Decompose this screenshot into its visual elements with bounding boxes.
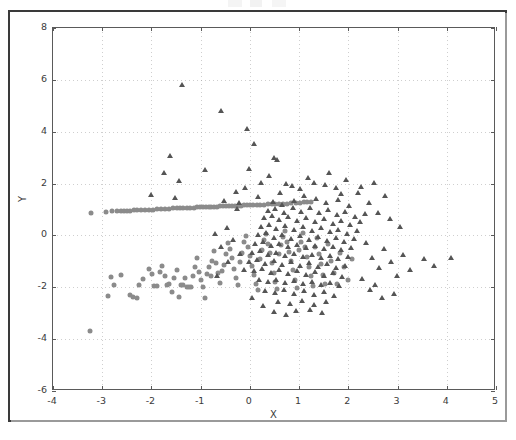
scatter-point-triangles	[256, 277, 262, 282]
scatter-point-triangles	[265, 279, 271, 284]
x-axis-tick-label: 0	[246, 396, 252, 406]
scatter-point-triangles	[294, 242, 300, 247]
scatter-point-triangles	[279, 202, 285, 207]
scatter-point-triangles	[251, 268, 257, 273]
scatter-point-triangles	[309, 228, 315, 233]
scatter-point-circles	[106, 294, 111, 299]
scatter-point-triangles	[272, 206, 278, 211]
scatter-point-triangles	[225, 259, 231, 264]
scatter-point-circles	[224, 251, 229, 256]
scatter-point-triangles	[325, 207, 331, 212]
scatter-point-triangles	[251, 141, 257, 146]
scatter-point-triangles	[312, 243, 318, 248]
scatter-point-triangles	[270, 199, 276, 204]
scatter-point-triangles	[319, 310, 325, 315]
y-axis-tick-label: 2	[28, 178, 47, 188]
scatter-point-circles	[310, 283, 315, 288]
scatter-point-triangles	[330, 270, 336, 275]
x-axis-tick-label: 3	[394, 396, 400, 406]
scatter-point-triangles	[311, 292, 317, 297]
scatter-point-triangles	[275, 299, 281, 304]
scatter-point-triangles	[272, 290, 278, 295]
scatter-point-triangles	[324, 261, 330, 266]
scatter-point-triangles	[335, 256, 341, 261]
scatter-point-triangles	[336, 283, 342, 288]
scatter-point-triangles	[254, 257, 260, 262]
scatter-point-triangles	[276, 241, 282, 246]
scatter-point-circles	[172, 275, 177, 280]
figure-canvas: -4-3-2-1012345-6-4-202468 X Y	[0, 0, 516, 440]
scatter-point-triangles	[255, 194, 261, 199]
scatter-point-triangles	[312, 219, 318, 224]
scatter-point-triangles	[341, 239, 347, 244]
x-axis-tick-label: -2	[146, 396, 155, 406]
scatter-point-triangles	[342, 209, 348, 214]
scatter-point-triangles	[299, 298, 305, 303]
scatter-point-triangles	[265, 208, 271, 213]
scatter-point-triangles	[260, 239, 266, 244]
scatter-point-triangles	[391, 291, 397, 296]
scatter-point-circles	[194, 255, 199, 260]
scatter-point-triangles	[241, 267, 247, 272]
scatter-point-triangles	[268, 270, 274, 275]
scatter-point-circles	[140, 276, 145, 281]
scatter-point-triangles	[298, 209, 304, 214]
scatter-point-triangles	[327, 229, 333, 234]
scatter-point-circles	[236, 282, 241, 287]
y-axis-tick	[491, 391, 495, 392]
scatter-point-triangles	[290, 205, 296, 210]
scatter-point-triangles	[148, 192, 154, 197]
scatter-point-triangles	[244, 126, 250, 131]
scatter-point-triangles	[367, 287, 373, 292]
scatter-point-triangles	[358, 184, 364, 189]
scatter-point-triangles	[233, 189, 239, 194]
scatter-point-triangles	[218, 244, 224, 249]
scatter-point-circles	[245, 244, 250, 249]
scatter-point-triangles	[351, 236, 357, 241]
scatter-point-circles	[137, 283, 142, 288]
scatter-point-triangles	[259, 266, 265, 271]
scatter-point-triangles	[291, 291, 297, 296]
scatter-point-triangles	[322, 182, 328, 187]
scatter-point-triangles	[260, 303, 266, 308]
scatter-point-circles	[182, 276, 187, 281]
scatter-point-circles	[155, 284, 160, 289]
scatter-point-triangles	[288, 259, 294, 264]
y-axis-label: Y	[17, 196, 28, 202]
scatter-point-triangles	[276, 217, 282, 222]
scatter-point-triangles	[330, 221, 336, 226]
scatter-point-triangles	[348, 245, 354, 250]
scatter-point-triangles	[294, 268, 300, 273]
scatter-point-triangles	[246, 259, 252, 264]
scatter-point-triangles	[266, 173, 272, 178]
scatter-point-triangles	[342, 263, 348, 268]
scatter-point-circles	[167, 282, 172, 287]
scatter-point-circles	[218, 280, 223, 285]
scatter-point-triangles	[321, 289, 327, 294]
scatter-point-triangles	[283, 312, 289, 317]
scatter-point-triangles	[288, 236, 294, 241]
scatter-point-triangles	[321, 246, 327, 251]
scatter-point-triangles	[379, 295, 385, 300]
scatter-point-circles	[200, 284, 205, 289]
scatter-point-triangles	[269, 213, 275, 218]
scatter-point-triangles	[271, 258, 277, 263]
scatter-point-triangles	[258, 180, 264, 185]
scatter-point-circles	[297, 248, 302, 253]
scatter-point-triangles	[306, 237, 312, 242]
scatter-point-triangles	[301, 288, 307, 293]
scatter-point-triangles	[221, 198, 227, 203]
scatter-point-triangles	[212, 231, 218, 236]
scatter-point-triangles	[271, 309, 277, 314]
scatter-point-triangles	[287, 301, 293, 306]
scatter-point-circles	[253, 282, 258, 287]
y-axis-tick-label: -4	[28, 333, 47, 343]
scatter-point-circles	[295, 285, 300, 290]
x-axis-tick-label: 2	[344, 396, 350, 406]
scatter-point-circles	[202, 296, 207, 301]
scatter-point-circles	[241, 239, 246, 244]
scatter-point-triangles	[285, 271, 291, 276]
y-axis-tick	[52, 391, 56, 392]
scatter-point-triangles	[407, 267, 413, 272]
scatter-point-circles	[162, 274, 167, 279]
